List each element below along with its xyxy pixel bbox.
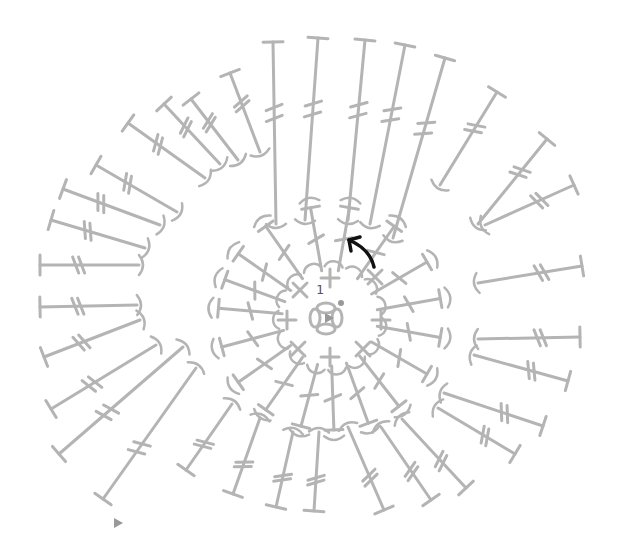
double-crochet-stitch (300, 198, 324, 271)
treble-crochet-stitch (383, 55, 454, 242)
treble-crochet-stitch (338, 39, 375, 224)
treble-crochet-stitch (474, 256, 584, 293)
treble-crochet-stitch (470, 133, 555, 231)
double-crochet-stitch (208, 298, 282, 320)
chain-loop (310, 309, 320, 327)
treble-crochet-stitch (304, 428, 329, 512)
round-3-treble-stitches (40, 37, 584, 514)
treble-crochet-stitch (221, 69, 270, 156)
treble-crochet-stitch (266, 428, 303, 509)
double-crochet-stitch (360, 356, 411, 417)
treble-crochet-stitch (440, 384, 547, 436)
treble-crochet-stitch (52, 339, 189, 461)
double-crochet-stitch (290, 364, 318, 436)
treble-crochet-stitch (263, 42, 286, 228)
treble-crochet-stitch (224, 413, 270, 497)
treble-crochet-stitch (373, 421, 440, 505)
treble-crochet-stitch (474, 327, 580, 349)
single-crochet-stitch (291, 342, 305, 356)
double-crochet-stitch (212, 330, 284, 358)
single-crochet-stitch (293, 283, 307, 297)
treble-crochet-stitch (360, 43, 415, 228)
treble-crochet-stitch (40, 295, 141, 317)
treble-crochet-stitch (40, 255, 143, 275)
treble-crochet-stitch (122, 115, 211, 186)
treble-crochet-stitch (178, 398, 240, 475)
end-triangle-icon (114, 518, 123, 528)
single-crochet-stitch (321, 348, 339, 366)
chain-arc (304, 264, 321, 273)
treble-crochet-stitch (95, 362, 204, 505)
chain-arc (278, 332, 288, 348)
round-number-label: 1 (316, 282, 324, 297)
treble-crochet-stitch (395, 412, 474, 495)
crochet-chart: 1 (0, 0, 617, 557)
double-crochet-stitch (335, 198, 360, 271)
start-dot-icon (338, 300, 344, 306)
treble-crochet-stitch (470, 345, 571, 390)
double-crochet-stitch (324, 366, 344, 440)
treble-crochet-stitch (40, 311, 144, 367)
treble-crochet-stitch (339, 422, 393, 514)
treble-crochet-stitch (431, 87, 505, 191)
treble-crochet-stitch (295, 37, 328, 224)
double-crochet-stitch (377, 323, 450, 348)
treble-crochet-stitch (48, 210, 149, 257)
double-crochet-stitch (215, 268, 285, 301)
double-crochet-stitch (377, 288, 450, 312)
chain-loop (317, 324, 335, 334)
